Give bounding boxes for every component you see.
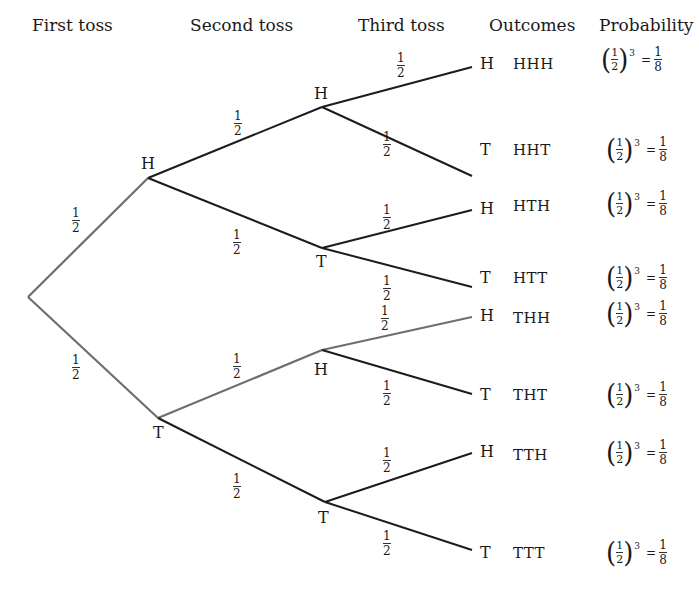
prob-hh-hht: 12 bbox=[382, 131, 392, 158]
outcome-label: HHT bbox=[513, 142, 551, 158]
node-second-ht: T bbox=[316, 254, 327, 270]
node-second-th: H bbox=[314, 362, 328, 378]
leaf-label: H bbox=[480, 444, 494, 460]
probability-expr: (12)3=18 bbox=[606, 136, 667, 163]
header-first-toss: First toss bbox=[32, 15, 113, 35]
node-second-tt: T bbox=[318, 510, 329, 526]
outcome-label: TTH bbox=[513, 447, 548, 463]
leaf-label: H bbox=[480, 201, 494, 217]
header-second-toss: Second toss bbox=[190, 15, 293, 35]
prob-t-tt: 12 bbox=[232, 473, 242, 500]
branch-tt-ttt bbox=[325, 502, 472, 550]
outcome-label: HHH bbox=[513, 56, 554, 72]
probability-expr: (12)3=18 bbox=[606, 264, 667, 291]
leaf-label: H bbox=[480, 56, 494, 72]
prob-ht-hth: 12 bbox=[382, 204, 392, 231]
prob-root-h: 12 bbox=[71, 207, 81, 234]
header-probability: Probability bbox=[599, 15, 693, 35]
branch-tt-tth bbox=[325, 453, 472, 502]
header-outcomes: Outcomes bbox=[489, 15, 575, 35]
branch-th-thh bbox=[322, 317, 472, 350]
node-first-h: H bbox=[141, 156, 155, 172]
prob-t-th: 12 bbox=[232, 353, 242, 380]
outcome-label: TTT bbox=[513, 545, 545, 561]
leaf-label: T bbox=[480, 142, 491, 158]
prob-h-ht: 12 bbox=[232, 229, 242, 256]
prob-th-thh: 12 bbox=[380, 305, 390, 332]
leaf-label: T bbox=[480, 545, 491, 561]
outcome-label: THH bbox=[513, 310, 551, 326]
outcome-label: HTT bbox=[513, 270, 548, 286]
probability-expr: (12)3=18 bbox=[606, 300, 667, 327]
branch-hh-hht bbox=[322, 107, 472, 176]
branch-th-tht bbox=[322, 350, 472, 394]
node-second-hh: H bbox=[314, 86, 328, 102]
header-third-toss: Third toss bbox=[358, 15, 445, 35]
prob-tt-ttt: 12 bbox=[382, 530, 392, 557]
prob-tt-tth: 12 bbox=[382, 447, 392, 474]
prob-th-tht: 12 bbox=[382, 380, 392, 407]
probability-expr: (12)3=18 bbox=[606, 381, 667, 408]
node-first-t: T bbox=[153, 425, 164, 441]
outcome-label: THT bbox=[513, 387, 548, 403]
prob-root-t: 12 bbox=[71, 354, 81, 381]
prob-hh-hhh: 12 bbox=[396, 52, 406, 79]
probability-expr: (12)3=18 bbox=[606, 439, 667, 466]
branch-root-t bbox=[28, 297, 158, 418]
probability-expr: (12)3=18 bbox=[606, 539, 667, 566]
prob-h-hh: 12 bbox=[233, 110, 243, 137]
branch-ht-htt bbox=[322, 248, 472, 287]
branch-root-h bbox=[28, 178, 148, 297]
branch-ht-hth bbox=[322, 210, 472, 248]
leaf-label: T bbox=[480, 387, 491, 403]
tree-lines bbox=[0, 0, 699, 591]
probability-expr: (12)3=18 bbox=[606, 190, 667, 217]
probability-expr: (12)3=18 bbox=[601, 46, 662, 73]
outcome-label: HTH bbox=[513, 198, 551, 214]
leaf-label: H bbox=[480, 308, 494, 324]
prob-ht-htt: 12 bbox=[382, 275, 392, 302]
leaf-label: T bbox=[480, 270, 491, 286]
